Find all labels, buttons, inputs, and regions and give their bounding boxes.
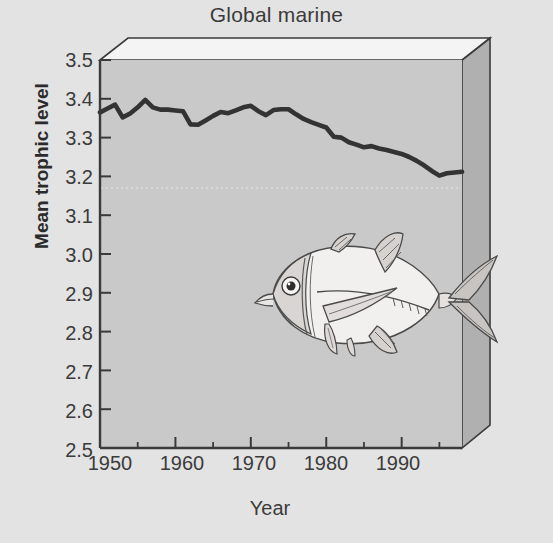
box-top-face <box>100 38 490 60</box>
box-side-face <box>462 38 490 448</box>
plot-back-wall <box>100 60 462 448</box>
plot-area <box>0 0 553 543</box>
chart-figure: Global marine Mean trophic level Year 3.… <box>0 0 553 543</box>
